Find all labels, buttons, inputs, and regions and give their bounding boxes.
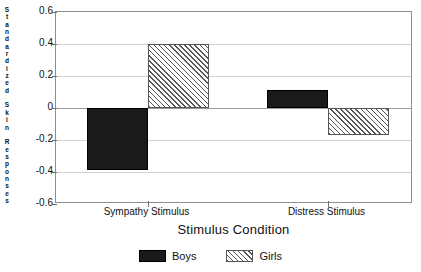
bar-girls-distress [328,108,389,135]
y-axis-tick-label: -0.2 [11,134,53,144]
gridline [56,76,411,77]
x-axis-category-label: Distress Stimulus [237,206,417,217]
y-axis-tick-label: 0.2 [11,70,53,80]
y-axis-tick-label: -0.4 [11,166,53,176]
gridline [56,172,411,173]
gridline [56,44,411,45]
y-axis-tick-mark [52,44,57,45]
plot-area [55,11,412,203]
legend-swatch-boys [139,250,166,262]
y-axis-tick-mark [52,12,57,13]
y-axis-tick-label: -0.6 [11,198,53,208]
legend-item-boys: Boys [139,250,196,262]
bar-girls-sympathy [148,44,209,108]
y-axis-tick-mark [52,172,57,173]
bar-boys-sympathy [87,108,148,170]
legend-item-girls: Girls [226,250,282,262]
legend-label-boys: Boys [172,250,196,262]
y-axis-tick-label: 0 [11,102,53,112]
y-axis-tick-label: 0.4 [11,38,53,48]
x-axis-category-label: Sympathy Stimulus [57,206,237,217]
chart-legend: Boys Girls [0,250,421,262]
y-axis-tick-mark [52,140,57,141]
y-axis-tick-label: 0.6 [11,6,53,16]
y-axis-tick-mark [52,108,57,109]
legend-label-girls: Girls [259,250,282,262]
y-axis-tick-labels: 0.60.40.20-0.2-0.4-0.6 [8,0,53,272]
y-axis-tick-mark [52,76,57,77]
chart-figure: StandardizedSkinResponses 0.60.40.20-0.2… [0,0,421,272]
legend-swatch-girls [226,250,253,262]
bar-boys-distress [267,90,328,108]
x-axis-title: Stimulus Condition [55,222,412,237]
y-axis-tick-mark [52,204,57,205]
